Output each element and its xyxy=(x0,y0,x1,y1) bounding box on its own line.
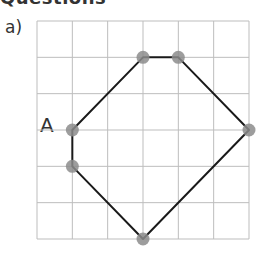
hexagon-shape xyxy=(72,57,249,239)
vertex-dot xyxy=(137,233,150,246)
vertex-dot xyxy=(137,51,150,64)
vertex-markers xyxy=(66,51,256,246)
vertex-dot xyxy=(243,124,256,137)
grid-diagram xyxy=(0,0,262,256)
vertex-dot xyxy=(66,160,79,173)
vertex-dot-a xyxy=(66,124,79,137)
vertex-dot xyxy=(172,51,185,64)
